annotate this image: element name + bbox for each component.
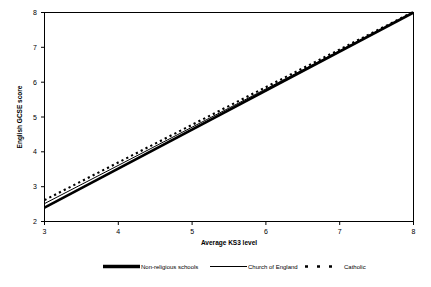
chart-figure: 8 7 6 5 4 3 2 3 4 5 6 7 8 Average KS3 l: [0, 0, 431, 287]
x-tick-label: 3: [43, 228, 47, 235]
y-axis-tick-labels: 8 7 6 5 4 3 2: [33, 9, 37, 225]
x-tick-label: 6: [264, 228, 268, 235]
chart-legend: Non-religious schools Church of England …: [103, 264, 366, 270]
legend-label-non-religious-schools: Non-religious schools: [141, 264, 198, 270]
y-tick-label: 3: [33, 183, 37, 190]
x-axis-tick-labels: 3 4 5 6 7 8: [43, 228, 416, 235]
x-axis-ticks: [45, 222, 414, 226]
y-tick-label: 7: [33, 44, 37, 51]
x-tick-label: 4: [116, 228, 120, 235]
y-tick-label: 4: [33, 148, 37, 155]
x-axis-title: Average KS3 level: [201, 239, 257, 247]
y-axis-title: English GCSE score: [16, 85, 24, 148]
x-tick-label: 5: [190, 228, 194, 235]
legend-label-church-of-england: Church of England: [248, 264, 298, 270]
y-axis-ticks: [41, 13, 45, 222]
y-tick-label: 6: [33, 79, 37, 86]
y-tick-label: 8: [33, 9, 37, 16]
x-tick-label: 7: [338, 228, 342, 235]
y-tick-label: 5: [33, 114, 37, 121]
plot-area-frame: [45, 13, 414, 222]
legend-label-catholic: Catholic: [344, 264, 366, 270]
x-tick-label: 8: [412, 228, 416, 235]
y-tick-label: 2: [33, 218, 37, 225]
